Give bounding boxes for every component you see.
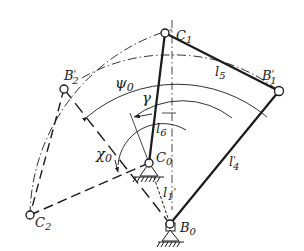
joint-b2p [60,85,68,93]
joints [26,29,284,228]
label-c0: C0 [156,150,173,167]
link-b2-b0 [64,89,170,224]
linkage-diagram: C1 B'1 B'2 C2 C0 B0 l5 l6 l'4 l1' ψ0 γ χ… [0,0,304,251]
joint-b0 [166,220,174,228]
joint-c1 [161,29,169,37]
gamma-ref-line [130,113,149,163]
joint-c0 [145,159,153,167]
joint-c2 [26,211,34,219]
label-psi0: ψ0 [115,74,134,94]
label-l5: l5 [215,64,226,81]
label-l1p: l1' [163,185,176,202]
chi0-arrow [115,160,118,172]
middle-arc [82,55,279,91]
label-c1: C1 [176,28,192,45]
label-c2: C2 [35,215,51,232]
link-c2-c0 [30,163,149,215]
label-gamma: γ [142,89,151,107]
diagram-svg: C1 B'1 B'2 C2 C0 B0 l5 l6 l'4 l1' ψ0 γ χ… [0,0,304,251]
label-b0: B0 [179,220,197,237]
joint-b1p [275,87,284,96]
label-l4p: l'4 [229,154,239,172]
link-b1-b0 [170,91,279,224]
link-b2-c2 [30,89,64,215]
outer-arc [30,30,172,215]
label-b2p: B'2 [63,68,79,86]
link-c1-c0 [149,33,165,163]
